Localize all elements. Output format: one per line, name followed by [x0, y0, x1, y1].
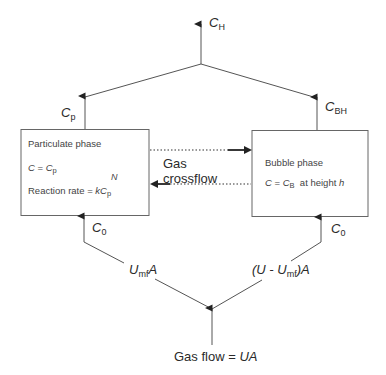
subscript: p [70, 112, 75, 122]
label-umf-a: UmfA [129, 263, 157, 276]
reaction-rate: Reaction rate = kCp [28, 186, 111, 196]
symbol: U [129, 262, 138, 277]
subscript: p [107, 189, 111, 198]
symbol: UA [239, 349, 257, 364]
symbol: C [283, 177, 290, 188]
symbol: C [331, 221, 340, 236]
subscript: 0 [340, 228, 345, 238]
symbol: C [325, 99, 334, 114]
subscript: 0 [101, 227, 106, 237]
right-split-line-a [291, 242, 321, 261]
subscript: BH [334, 106, 347, 116]
text: Gas flow = [174, 349, 239, 364]
left-split-line-b [155, 279, 212, 309]
subscript: H [218, 22, 225, 32]
bubble-concentration: C = CB at height h [265, 178, 344, 188]
label-c-h: CH [209, 16, 225, 29]
label-c-p: Cp [61, 106, 75, 119]
symbol: C [92, 220, 101, 235]
right-split-line-b [212, 280, 262, 309]
crossflow-label-line2: crossflow [163, 172, 217, 185]
reaction-order-exponent: N [111, 172, 118, 182]
label-left-c0: C0 [92, 221, 106, 234]
subscript: mf [287, 269, 297, 279]
particulate-phase-title: Particulate phase [28, 139, 101, 149]
label-c-bh: CBH [325, 100, 347, 113]
subscript: B [290, 181, 295, 190]
symbol: h [339, 177, 344, 188]
crossflow-right-arrowhead [244, 146, 252, 154]
symbol: A [148, 262, 157, 277]
equals: = [35, 162, 46, 173]
top-merge-lines [85, 64, 317, 98]
label-u-minus-umf-a: (U - Umf)A [252, 263, 310, 276]
symbol: C [61, 105, 70, 120]
subscript: p [53, 166, 57, 175]
symbol: C [28, 162, 35, 173]
left-split-line-a [84, 242, 124, 263]
gas-flow-label: Gas flow = UA [174, 350, 257, 363]
symbol: (U - U [252, 262, 287, 277]
symbol: )A [297, 262, 310, 277]
symbol: kC [95, 185, 107, 196]
reaction-rate-label: Reaction rate = [28, 185, 95, 196]
text: at height [295, 177, 339, 188]
symbol: C [209, 15, 218, 30]
bubble-phase-box [252, 131, 368, 217]
bubble-phase-title: Bubble phase [265, 158, 323, 168]
crossflow-left-arrowhead [150, 180, 158, 188]
equals: = [272, 177, 283, 188]
symbol: C [265, 177, 272, 188]
subscript: mf [138, 269, 148, 279]
label-right-c0: C0 [331, 222, 345, 235]
particulate-concentration: C = Cp [28, 163, 57, 173]
crossflow-label-line1: Gas [163, 157, 187, 170]
symbol: C [46, 162, 53, 173]
